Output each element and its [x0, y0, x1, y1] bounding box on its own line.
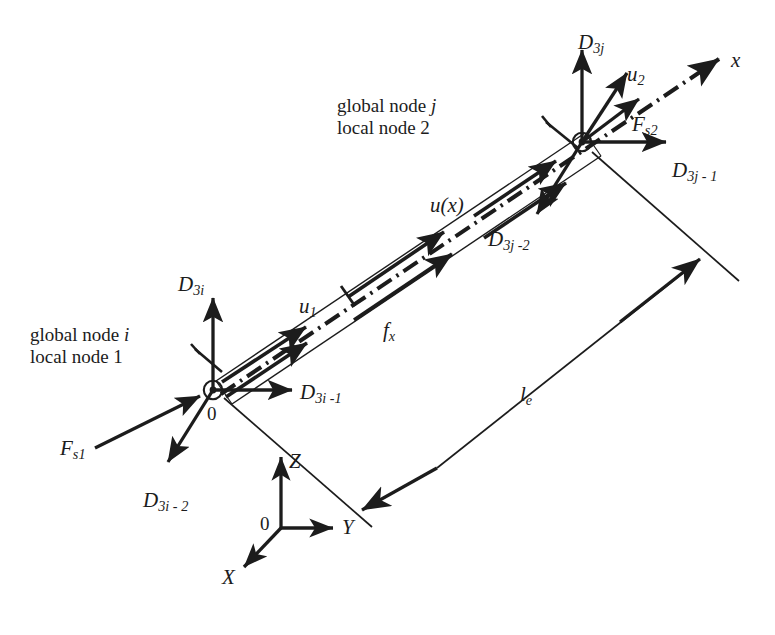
label-Fs2: Fs2 — [632, 112, 658, 139]
label-u2-sub: 2 — [638, 72, 645, 88]
node-j-caption-line1: global node — [337, 95, 426, 116]
label-Fs2-sub: s2 — [645, 122, 658, 138]
label-local-x-base: x — [731, 48, 740, 72]
label-ux: u(x) — [430, 193, 464, 218]
label-D3j-1: D3j - 1 — [672, 158, 717, 185]
label-global-X-text: X — [222, 565, 235, 589]
label-D3j-sub: 3j — [593, 40, 604, 56]
label-D3j-base: D — [578, 30, 593, 54]
arrow-Fs2 — [582, 99, 639, 142]
label-Fs1-sub: s1 — [73, 446, 86, 462]
label-ux-base: u(x) — [430, 193, 464, 217]
label-u1: u1 — [299, 294, 317, 321]
label-D3j: D3j — [578, 30, 604, 57]
node-j-caption-index: j — [431, 95, 436, 116]
label-D3j-1-sub: 3j - 1 — [687, 168, 717, 184]
label-D3i-2-sub: 3i - 2 — [158, 498, 188, 514]
label-u1-base: u — [299, 294, 310, 318]
label-D3i-1: D3i -1 — [300, 380, 342, 407]
label-global-Z: Z — [289, 449, 301, 474]
label-local-x-axis: x — [731, 48, 740, 73]
label-Fs1-base: F — [60, 436, 73, 460]
label-fx: fx — [383, 318, 395, 345]
label-Fs1: Fs1 — [60, 436, 86, 463]
label-D3i-base: D — [178, 272, 193, 296]
label-D3j-2-sub: 3j -2 — [503, 237, 530, 253]
node-i-caption-line2: local node 1 — [30, 346, 123, 367]
label-global-Z-text: Z — [289, 449, 301, 473]
arrow-fx-mid — [354, 254, 452, 320]
label-D3i-1-base: D — [300, 380, 315, 404]
node-i-caption: global node i local node 1 — [30, 324, 129, 369]
label-D3i-1-sub: 3i -1 — [315, 390, 342, 406]
midspan-arrows — [341, 161, 566, 320]
label-D3j-2: D3j -2 — [488, 227, 530, 254]
label-global-Y: Y — [342, 515, 354, 540]
label-Fs2-base: F — [632, 112, 645, 136]
label-le-sub: e — [526, 392, 532, 408]
label-u1-sub: 1 — [310, 304, 317, 320]
label-local-origin-text: 0 — [207, 403, 217, 424]
label-global-Y-text: Y — [342, 515, 354, 539]
dim-arrow-right — [620, 259, 700, 322]
label-D3j-2-base: D — [488, 227, 503, 251]
label-local-origin-zero: 0 — [207, 403, 217, 425]
local-x-axis-centerline — [221, 59, 719, 394]
arrow-u2 — [582, 73, 627, 142]
label-D3j-1-base: D — [672, 158, 687, 182]
label-global-X: X — [222, 565, 235, 590]
figure-root: global node i local node 1 global node j… — [0, 0, 775, 635]
arrow-ux-2 — [474, 161, 556, 216]
node-i-caption-index: i — [124, 324, 129, 345]
dim-arrow-left — [362, 468, 437, 510]
label-u2-base: u — [627, 62, 638, 86]
node-j-caption: global node j local node 2 — [337, 95, 436, 140]
label-fx-sub: x — [389, 328, 395, 344]
arrow-ux — [348, 232, 444, 297]
label-D3i-2-base: D — [143, 488, 158, 512]
node-j-caption-line2: local node 2 — [337, 117, 430, 138]
node-i-caption-line1: global node — [30, 324, 119, 345]
label-D3i-2: D3i - 2 — [143, 488, 188, 515]
local-axis-tick-j-cap — [542, 116, 551, 127]
label-D3i: D3i — [178, 272, 204, 299]
label-global-origin-text: 0 — [260, 513, 270, 534]
local-axis-tick-i-cap — [191, 344, 200, 354]
node-i-group — [95, 298, 307, 462]
label-element-length: le — [520, 382, 532, 409]
label-D3i-sub: 3i — [193, 282, 204, 298]
arrow-Fs1 — [95, 396, 200, 448]
label-global-origin-zero: 0 — [260, 513, 270, 535]
label-u2: u2 — [627, 62, 645, 89]
